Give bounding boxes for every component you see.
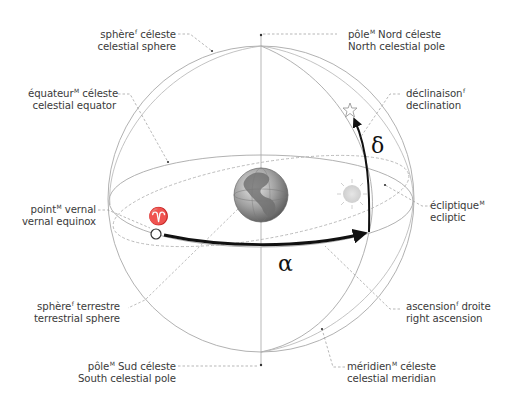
- label-celestial-meridian: méridienM céleste celestial meridian: [347, 358, 436, 385]
- celestial-sphere-leader: [178, 34, 212, 51]
- label-celestial-sphere: sphèref céleste celestial sphere: [96, 26, 176, 53]
- declination-leader: [360, 94, 400, 138]
- sun-icon: [337, 179, 367, 209]
- label-ecliptic: écliptiqueM ecliptic: [430, 197, 485, 224]
- right-ascension-leader: [325, 246, 400, 309]
- ecliptic-leader: [385, 185, 432, 206]
- delta-symbol: δ: [371, 135, 384, 157]
- south-pole-dot: [260, 364, 262, 366]
- star-icon: [343, 103, 357, 117]
- label-declination: déclinaisonf declination: [406, 85, 465, 112]
- north-pole-dot: [260, 34, 262, 36]
- vernal-point-marker: [151, 229, 161, 239]
- label-right-ascension: ascensionf droite right ascension: [406, 298, 491, 325]
- label-vernal-equinox: pointM vernal vernal equinox: [14, 201, 96, 228]
- label-terrestrial-sphere: sphèref terrestre terrestrial sphere: [30, 298, 120, 325]
- earth-globe-icon: [234, 168, 288, 222]
- terrestrial-sphere-leader: [128, 209, 238, 308]
- vernal-point-symbol: ♈: [148, 207, 169, 225]
- label-celestial-equator: équateurM céleste celestial equator: [28, 85, 116, 112]
- alpha-symbol: α: [278, 253, 293, 275]
- celestial-meridian-leader: [322, 329, 345, 367]
- vernal-equinox-leader: [98, 210, 150, 228]
- label-north-pole: pôleM Nord céleste North celestial pole: [348, 26, 445, 53]
- label-south-pole: pôleM Sud céleste South celestial pole: [76, 358, 176, 385]
